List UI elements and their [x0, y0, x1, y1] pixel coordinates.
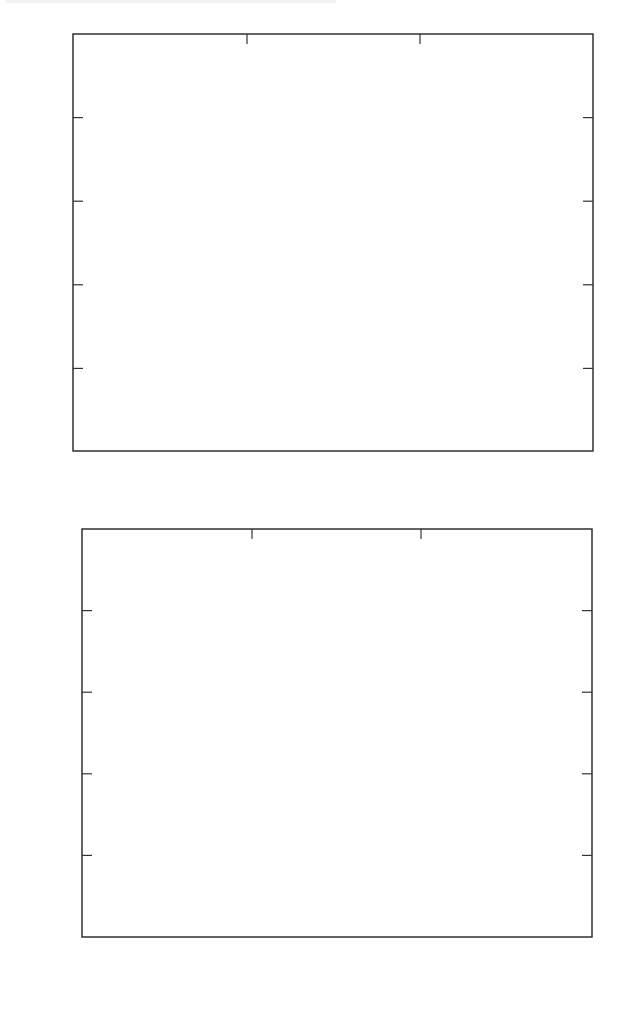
y-axis — [82, 529, 592, 855]
plot-frame — [73, 34, 593, 451]
bottom-chart — [0, 0, 592, 937]
figure — [0, 0, 636, 1026]
y-axis — [73, 34, 593, 368]
plot-frame — [82, 529, 592, 937]
top-chart — [0, 0, 593, 451]
